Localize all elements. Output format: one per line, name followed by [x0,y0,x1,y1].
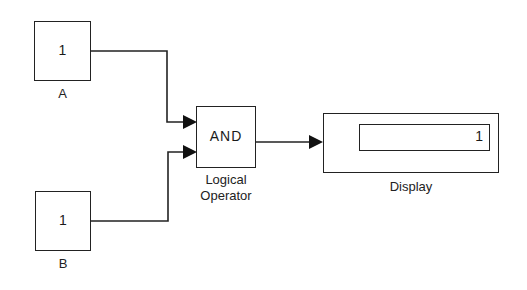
constant-value: 1 [35,42,90,58]
display-value: 1 [475,128,483,144]
signal-line-a [91,51,184,122]
arrow-icon [183,115,197,129]
block-label-logical-operator: Logical Operator [176,172,276,204]
display-block[interactable]: 1 [323,113,499,173]
arrow-icon [309,135,323,149]
logical-operator-block[interactable]: AND [196,106,256,168]
block-label-display: Display [323,179,499,195]
label-line: Logical [176,172,276,188]
constant-block-b[interactable]: 1 [35,191,91,251]
constant-block-a[interactable]: 1 [34,21,91,81]
signal-line-b [91,152,184,221]
label-line: Operator [176,188,276,204]
block-label-a: A [34,86,91,102]
block-label-b: B [35,256,91,272]
arrow-icon [183,145,197,159]
operator-text: AND [197,128,255,144]
display-field: 1 [359,124,490,151]
constant-value: 1 [36,212,90,228]
